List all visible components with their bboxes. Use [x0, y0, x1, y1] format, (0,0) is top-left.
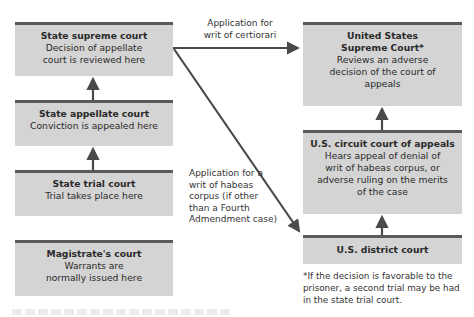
box-description: Trial takes place here	[15, 190, 173, 202]
box-description: Hears appeal of denial of writ of habeas…	[303, 150, 462, 198]
state-trial-court-box: State trial court Trial takes place here	[15, 170, 173, 216]
box-title: U.S. district court	[303, 244, 462, 256]
certiorari-label: Application for writ of certiorari	[200, 18, 280, 41]
state-appellate-court-box: State appellate court Conviction is appe…	[15, 100, 173, 146]
cropped-figure-caption	[12, 309, 232, 315]
box-title: Magistrate's court	[15, 248, 173, 260]
box-title: U.S. circuit court of appeals	[303, 138, 462, 150]
state-supreme-court-box: State supreme court Decision of appellat…	[15, 22, 173, 76]
box-title: State trial court	[15, 178, 173, 190]
us-district-court-box: U.S. district court	[303, 235, 462, 264]
habeas-label: Application for a writ of habeas corpus …	[189, 168, 281, 226]
box-title: State appellate court	[15, 108, 173, 120]
box-description: Reviews an adverse decision of the court…	[303, 54, 462, 90]
box-title: United States Supreme Court*	[303, 30, 462, 54]
us-supreme-court-box: United States Supreme Court* Reviews an …	[303, 22, 462, 106]
box-description: Conviction is appealed here	[15, 120, 173, 132]
footnote: *If the decision is favorable to the pri…	[303, 270, 463, 306]
box-description: Warrants are normally issued here	[15, 260, 173, 284]
magistrates-court-box: Magistrate's court Warrants are normally…	[15, 240, 173, 296]
box-title: State supreme court	[15, 30, 173, 42]
box-description: Decision of appellate court is reviewed …	[15, 42, 173, 66]
us-circuit-court-box: U.S. circuit court of appeals Hears appe…	[303, 130, 462, 214]
